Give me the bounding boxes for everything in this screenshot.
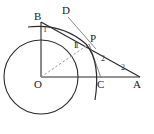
point-label-d: D [62,5,70,16]
length-label-ip: 1 [75,42,79,50]
point-label-c: C [97,79,104,90]
point-label-o: O [34,79,42,90]
point-label-p: P [90,33,96,44]
point-label-b: B [34,11,41,22]
length-label-bi: 1 [43,26,47,34]
figure-canvas [0,0,154,134]
length-label-ca: 2 [121,64,125,72]
point-label-a: A [133,79,141,90]
length-label-pc: 2 [101,55,105,63]
geometry-figure: B D P I O C A 1 1 2 2 [0,0,154,134]
